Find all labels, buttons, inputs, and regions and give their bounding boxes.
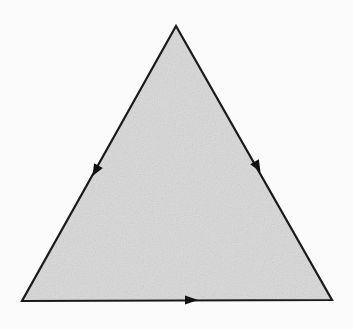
triangle-diagram	[0, 0, 353, 329]
triangle-fill	[22, 26, 332, 301]
diagram-canvas	[0, 0, 353, 329]
